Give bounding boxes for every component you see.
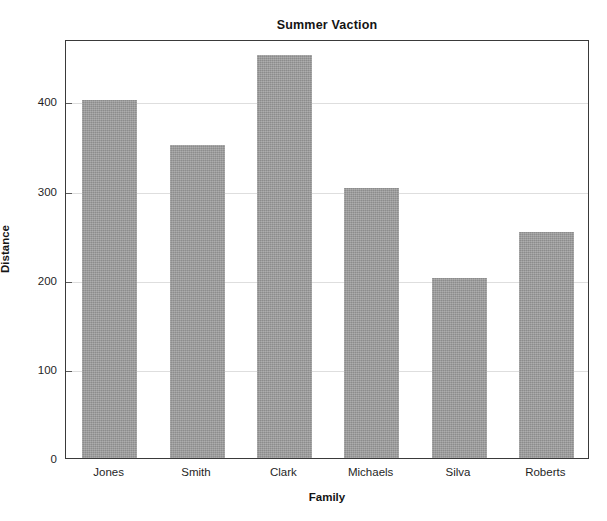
bar xyxy=(82,100,137,458)
x-tick-label: Roberts xyxy=(502,466,589,478)
y-tick-label: 100 xyxy=(11,364,57,376)
y-tick-mark xyxy=(66,103,72,104)
plot-frame xyxy=(65,40,589,459)
y-tick-mark xyxy=(66,193,72,194)
bar xyxy=(519,232,574,458)
bar xyxy=(432,278,487,458)
bar xyxy=(170,145,225,458)
y-axis-title: Distance xyxy=(0,225,11,273)
y-tick-mark xyxy=(66,371,72,372)
x-tick-label: Michaels xyxy=(327,466,414,478)
chart-title: Summer Vaction xyxy=(65,18,589,32)
y-tick-label: 200 xyxy=(11,275,57,287)
bar xyxy=(257,55,312,458)
y-tick-label: 400 xyxy=(11,96,57,108)
x-tick-label: Clark xyxy=(240,466,327,478)
bar xyxy=(344,188,399,458)
bar-chart-figure: Summer Vaction 0100200300400 JonesSmithC… xyxy=(0,0,607,521)
x-tick-label: Smith xyxy=(152,466,239,478)
gridline xyxy=(66,103,588,104)
x-tick-label: Silva xyxy=(414,466,501,478)
y-tick-mark xyxy=(66,282,72,283)
y-tick-label: 300 xyxy=(11,186,57,198)
gridline xyxy=(66,371,588,372)
x-tick-label: Jones xyxy=(65,466,152,478)
y-tick-label: 0 xyxy=(11,453,57,465)
plot-area xyxy=(66,41,588,458)
gridline xyxy=(66,193,588,194)
gridline xyxy=(66,282,588,283)
x-axis-title: Family xyxy=(65,491,589,503)
